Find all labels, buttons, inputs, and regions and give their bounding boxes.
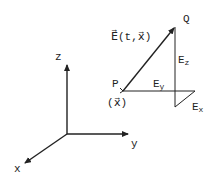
position-label: (x⃗)	[107, 98, 127, 109]
point-q-label: Q	[183, 14, 190, 25]
ey-label: Ey	[153, 79, 164, 90]
point-p-label: P	[112, 79, 119, 90]
p-tail-mark	[120, 88, 123, 93]
diagram-canvas	[0, 0, 214, 184]
ex-label: Ex	[192, 102, 203, 113]
ez-label: Ez	[178, 55, 189, 66]
x-axis	[25, 134, 67, 163]
x-axis-label: x	[14, 164, 21, 175]
z-axis-label: z	[55, 52, 62, 63]
y-axis-label: y	[131, 139, 138, 150]
e-field-label: E⃗(t,x⃗)	[111, 32, 151, 43]
